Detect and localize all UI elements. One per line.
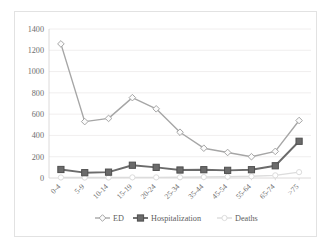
legend-marker-ed: [99, 215, 106, 222]
chart-plot-area: 0200400600800100012001400 0-45-910-1415-…: [15, 12, 318, 238]
legend-label-deaths: Deaths: [235, 214, 258, 223]
datapoint-deaths-15-19: [130, 175, 135, 180]
x-tick-20-24: 20-24: [139, 182, 158, 201]
x-tick-0-4: 0-4: [49, 182, 63, 196]
series-ed: [58, 41, 303, 160]
y-tick-400: 400: [32, 131, 44, 140]
datapoint-ed-55-64: [248, 153, 255, 160]
datapoint-ed-45-54: [224, 149, 231, 156]
line-chart: 0200400600800100012001400 0-45-910-1415-…: [15, 12, 318, 238]
legend-item-hospitalization[interactable]: Hospitalization: [133, 214, 201, 223]
x-axis-tick-labels: 0-45-910-1415-1920-2425-3435-4445-5455-6…: [49, 182, 301, 201]
x-tick-45-54: 45-54: [210, 182, 229, 201]
x-tick-15-19: 15-19: [115, 182, 134, 201]
datapoint-hospitalization-0-4: [58, 166, 64, 172]
x-tick-65-74: 65-74: [258, 182, 277, 201]
x-tick-25-34: 25-34: [163, 182, 182, 201]
y-tick-800: 800: [32, 89, 44, 98]
legend-item-deaths[interactable]: Deaths: [217, 214, 258, 223]
datapoint-hospitalization-10-14: [105, 169, 111, 175]
datapoint-hospitalization-15-19: [129, 162, 135, 168]
datapoint-hospitalization-5-9: [82, 170, 88, 176]
chart-card: 0200400600800100012001400 0-45-910-1415-…: [14, 11, 317, 237]
legend-marker-hospitalization: [137, 215, 143, 221]
y-tick-600: 600: [32, 110, 44, 119]
y-axis-tick-labels: 0200400600800100012001400: [28, 25, 44, 183]
datapoint-hospitalization->75: [296, 138, 302, 144]
legend-marker-deaths: [222, 215, 227, 220]
datapoint-deaths-65-74: [273, 173, 278, 178]
datapoint-deaths-25-34: [177, 175, 182, 180]
y-tick-1200: 1200: [28, 46, 44, 55]
datapoint-hospitalization-45-54: [225, 167, 231, 173]
datapoint-hospitalization-20-24: [153, 164, 159, 170]
series-line-ed: [61, 44, 299, 157]
x-tick-10-14: 10-14: [91, 182, 110, 201]
y-tick-1400: 1400: [28, 25, 44, 34]
datapoint-deaths-55-64: [249, 174, 254, 179]
legend-item-ed[interactable]: ED: [95, 214, 124, 223]
datapoint-deaths-35-44: [201, 174, 206, 179]
x-tick-35-44: 35-44: [186, 182, 205, 201]
datapoint-hospitalization-55-64: [248, 167, 254, 173]
y-tick-0: 0: [40, 174, 44, 183]
x-tick-5-9: 5-9: [73, 182, 87, 196]
y-tick-1000: 1000: [28, 67, 44, 76]
legend-label-ed: ED: [113, 214, 124, 223]
datapoint-hospitalization-35-44: [201, 167, 207, 173]
chart-legend: EDHospitalizationDeaths: [95, 214, 258, 223]
data-series-layer: [58, 41, 303, 181]
datapoint-deaths-45-54: [225, 174, 230, 179]
x-tick-55-64: 55-64: [234, 182, 253, 201]
datapoint-hospitalization-25-34: [177, 167, 183, 173]
x-tick->75: >75: [286, 182, 301, 197]
datapoint-deaths-20-24: [154, 175, 159, 180]
legend-label-hospitalization: Hospitalization: [151, 214, 201, 223]
datapoint-deaths-0-4: [58, 175, 63, 180]
y-tick-200: 200: [32, 153, 44, 162]
datapoint-deaths->75: [296, 170, 301, 175]
gridlines: [49, 29, 311, 180]
datapoint-deaths-10-14: [106, 175, 111, 180]
datapoint-hospitalization-65-74: [272, 163, 278, 169]
datapoint-ed-0-4: [58, 41, 65, 48]
datapoint-ed-5-9: [81, 118, 88, 125]
